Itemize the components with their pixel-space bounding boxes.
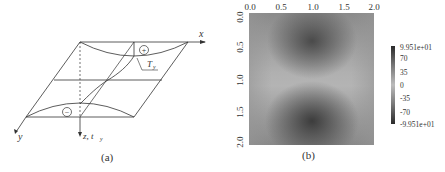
panel-b-heatmap: 0.0 0.5 1.0 1.5 2.0 0.0 0.5 1.0 1.5 2.0 … [220, 0, 445, 172]
y-tick: 1.0 [235, 74, 245, 85]
y-tick: 2.0 [235, 136, 245, 147]
shear-stress-diagram: + − x y z, t y T y [0, 0, 220, 172]
heatmap-edge-shade [249, 13, 374, 145]
y-tick: 1.5 [235, 106, 245, 117]
x-axis-label: x [198, 28, 204, 39]
x-tick: 2.0 [368, 2, 379, 12]
y-tick: 0.0 [235, 11, 245, 22]
colorbar-label: -9.951e+01 [400, 120, 434, 129]
x-tick: 0.5 [275, 2, 286, 12]
z-axis-arrow-icon [78, 132, 82, 137]
panel-a-diagram: + − x y z, t y T y (a) [0, 0, 220, 172]
z-axis-label: z, t [82, 131, 94, 141]
minus-label: − [65, 108, 70, 117]
colorbar-label: 35 [400, 68, 408, 77]
caption-b: (b) [302, 149, 315, 161]
colorbar-label: -70 [400, 108, 410, 117]
x-tick: 1.5 [338, 2, 349, 12]
x-tick: 0.0 [244, 2, 255, 12]
x-tick: 1.0 [307, 2, 318, 12]
z-axis-subscript: y [99, 136, 103, 142]
colorbar [391, 46, 395, 124]
colorbar-label: 9.951e+01 [400, 43, 432, 52]
colorbar-label: 0 [400, 81, 404, 90]
colorbar-label: -35 [400, 94, 410, 103]
t-subscript: y [152, 64, 156, 70]
x-axis-arrow-icon [200, 40, 206, 44]
y-axis-label: y [17, 131, 23, 142]
y-tick: 0.5 [235, 41, 245, 52]
colorbar-label: 70 [400, 54, 408, 63]
caption-a: (a) [101, 151, 113, 163]
plus-label: + [142, 46, 147, 55]
